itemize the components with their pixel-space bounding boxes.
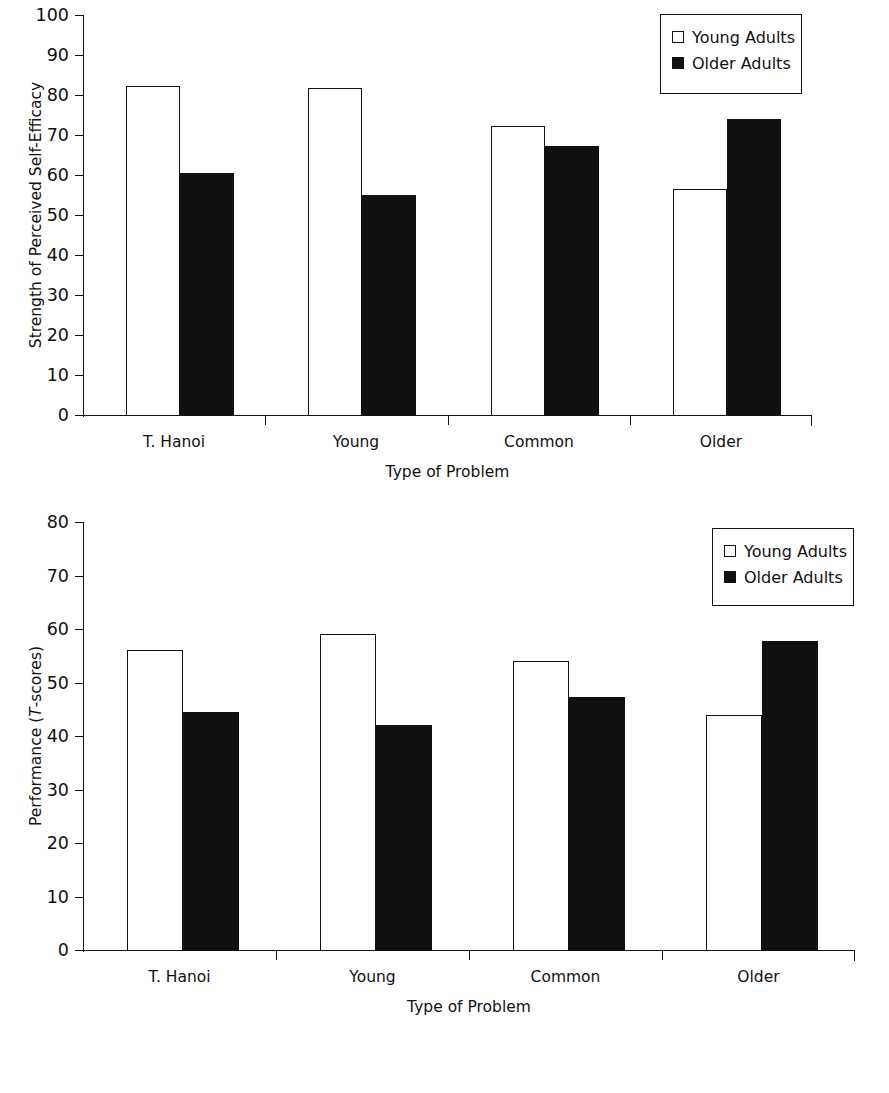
y-axis-tick [75, 522, 83, 523]
y-axis-tick-label: 70 [21, 566, 69, 586]
x-axis-category-label: Young [276, 968, 469, 986]
y-axis-tick-label: 0 [21, 940, 69, 960]
bar-older-adults [569, 697, 625, 951]
y-axis-tick-label: 0 [21, 405, 69, 425]
bar-young-adults [513, 661, 569, 951]
black-square-icon [672, 57, 684, 69]
legend-performance: Young Adults Older Adults [712, 528, 854, 606]
y-axis-line [83, 522, 84, 952]
x-axis-category-tick [469, 951, 470, 960]
y-axis-title: Performance (T-scores) [27, 646, 45, 826]
x-axis-category-tick [630, 416, 631, 425]
y-axis-tick [75, 683, 83, 684]
bar-older-adults [362, 195, 416, 416]
y-axis-tick [75, 897, 83, 898]
legend-item-label: Young Adults [744, 542, 847, 561]
y-axis-tick [75, 295, 83, 296]
x-axis-title: Type of Problem [83, 998, 855, 1016]
y-axis-tick-label: 20 [21, 833, 69, 853]
x-axis-end-tick [854, 950, 855, 961]
y-axis-tick [75, 843, 83, 844]
x-axis-category-label: Young [265, 433, 447, 451]
bar-young-adults [673, 189, 727, 416]
x-axis-category-tick [276, 951, 277, 960]
y-axis-tick [75, 215, 83, 216]
x-axis-category-tick [662, 951, 663, 960]
x-axis-category-tick [265, 416, 266, 425]
bar-older-adults [183, 712, 239, 951]
y-axis-tick-label: 10 [21, 887, 69, 907]
x-axis-category-label: Older [630, 433, 812, 451]
bar-young-adults [126, 86, 180, 416]
y-axis-tick [75, 175, 83, 176]
y-axis-tick [75, 135, 83, 136]
y-axis-tick [75, 576, 83, 577]
bar-young-adults [320, 634, 376, 951]
y-axis-tick [75, 629, 83, 630]
x-axis-category-label: Common [448, 433, 630, 451]
legend-item: Young Adults [724, 538, 840, 564]
x-axis-title: Type of Problem [83, 463, 812, 481]
y-axis-tick [75, 335, 83, 336]
y-axis-tick-label: 60 [21, 619, 69, 639]
y-axis-tick-label: 100 [21, 5, 69, 25]
y-axis-tick [75, 95, 83, 96]
chart-performance: 01020304050607080Performance (T-scores)T… [0, 500, 889, 1093]
bar-young-adults [706, 715, 762, 951]
bar-young-adults [308, 88, 362, 416]
white-square-icon [724, 545, 736, 557]
x-axis-category-label: Common [469, 968, 662, 986]
x-axis-category-tick [448, 416, 449, 425]
y-axis-tick-label: 90 [21, 45, 69, 65]
y-axis-tick [75, 375, 83, 376]
bar-young-adults [127, 650, 183, 951]
bar-older-adults [762, 641, 818, 951]
y-axis-tick [75, 736, 83, 737]
y-axis-tick-label: 80 [21, 512, 69, 532]
bar-older-adults [376, 725, 432, 951]
y-axis-tick [75, 255, 83, 256]
legend-item-label: Older Adults [692, 54, 791, 73]
legend-item: Older Adults [672, 50, 788, 76]
legend-item-label: Young Adults [692, 28, 795, 47]
bar-older-adults [545, 146, 599, 416]
legend-item-label: Older Adults [744, 568, 843, 587]
x-axis-category-label: T. Hanoi [83, 968, 276, 986]
black-square-icon [724, 571, 736, 583]
legend-self-efficacy: Young Adults Older Adults [660, 14, 802, 94]
figure-page: 0102030405060708090100Strength of Percei… [0, 0, 889, 1093]
white-square-icon [672, 31, 684, 43]
y-axis-line [83, 15, 84, 417]
bar-older-adults [727, 119, 781, 416]
x-axis-category-label: Older [662, 968, 855, 986]
y-axis-tick [75, 790, 83, 791]
y-axis-tick [75, 950, 83, 951]
y-axis-tick-label: 10 [21, 365, 69, 385]
legend-item: Older Adults [724, 564, 840, 590]
y-axis-tick [75, 415, 83, 416]
x-axis-end-tick [811, 415, 812, 426]
y-axis-tick [75, 15, 83, 16]
chart-self-efficacy: 0102030405060708090100Strength of Percei… [0, 0, 889, 500]
y-axis-title: Strength of Perceived Self-Efficacy [27, 82, 45, 348]
bar-older-adults [180, 173, 234, 416]
y-axis-tick [75, 55, 83, 56]
x-axis-category-label: T. Hanoi [83, 433, 265, 451]
legend-item: Young Adults [672, 24, 788, 50]
bar-young-adults [491, 126, 545, 416]
